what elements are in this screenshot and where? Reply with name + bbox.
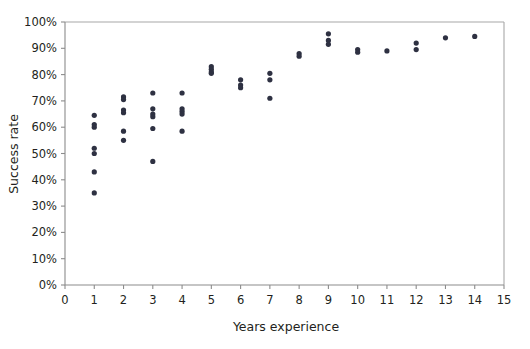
data-point bbox=[472, 34, 477, 39]
x-axis-ticks: 0123456789101112131415 bbox=[61, 285, 511, 307]
data-point bbox=[121, 97, 126, 102]
data-point bbox=[384, 48, 389, 53]
data-point bbox=[267, 96, 272, 101]
data-point bbox=[414, 47, 419, 52]
data-points bbox=[92, 31, 478, 195]
x-tick-label: 10 bbox=[350, 293, 365, 307]
data-point bbox=[414, 40, 419, 45]
data-point bbox=[179, 111, 184, 116]
data-point bbox=[150, 106, 155, 111]
data-point bbox=[179, 90, 184, 95]
data-point bbox=[92, 125, 97, 130]
data-point bbox=[209, 71, 214, 76]
data-point bbox=[297, 54, 302, 59]
y-tick-label: 90% bbox=[31, 41, 57, 55]
data-point bbox=[92, 151, 97, 156]
data-point bbox=[179, 129, 184, 134]
data-point bbox=[150, 126, 155, 131]
y-axis-title: Success rate bbox=[6, 114, 21, 194]
y-axis-ticks: 0%10%20%30%40%50%60%70%80%90%100% bbox=[24, 15, 65, 292]
data-point bbox=[238, 85, 243, 90]
x-tick-label: 7 bbox=[266, 293, 273, 307]
data-point bbox=[92, 113, 97, 118]
x-tick-label: 4 bbox=[178, 293, 185, 307]
y-tick-label: 20% bbox=[31, 225, 57, 239]
data-point bbox=[443, 35, 448, 40]
data-point bbox=[150, 159, 155, 164]
x-tick-label: 14 bbox=[467, 293, 482, 307]
data-point bbox=[355, 50, 360, 55]
x-tick-label: 15 bbox=[497, 293, 512, 307]
x-tick-label: 8 bbox=[295, 293, 302, 307]
x-tick-label: 13 bbox=[438, 293, 453, 307]
data-point bbox=[92, 169, 97, 174]
plot-frame bbox=[65, 22, 504, 285]
data-point bbox=[150, 90, 155, 95]
data-point bbox=[121, 110, 126, 115]
data-point bbox=[326, 31, 331, 36]
x-tick-label: 2 bbox=[120, 293, 127, 307]
x-axis-title: Years experience bbox=[232, 319, 340, 334]
x-tick-label: 3 bbox=[149, 293, 156, 307]
x-tick-label: 1 bbox=[91, 293, 98, 307]
x-tick-label: 11 bbox=[380, 293, 395, 307]
y-tick-label: 40% bbox=[31, 173, 57, 187]
data-point bbox=[92, 190, 97, 195]
data-point bbox=[267, 77, 272, 82]
y-tick-label: 0% bbox=[39, 278, 57, 292]
data-point bbox=[121, 138, 126, 143]
y-tick-label: 80% bbox=[31, 68, 57, 82]
data-point bbox=[150, 114, 155, 119]
y-tick-label: 60% bbox=[31, 120, 57, 134]
data-point bbox=[92, 146, 97, 151]
scatter-chart-figure: 0%10%20%30%40%50%60%70%80%90%100% 012345… bbox=[0, 0, 530, 349]
x-tick-label: 12 bbox=[409, 293, 424, 307]
y-tick-label: 70% bbox=[31, 94, 57, 108]
y-tick-label: 50% bbox=[31, 147, 57, 161]
y-tick-label: 10% bbox=[31, 252, 57, 266]
data-point bbox=[121, 129, 126, 134]
x-tick-label: 9 bbox=[325, 293, 332, 307]
plot-canvas: 0%10%20%30%40%50%60%70%80%90%100% 012345… bbox=[0, 0, 530, 349]
x-tick-label: 0 bbox=[61, 293, 68, 307]
data-point bbox=[267, 71, 272, 76]
data-point bbox=[238, 77, 243, 82]
y-tick-label: 100% bbox=[24, 15, 57, 29]
data-point bbox=[326, 42, 331, 47]
x-tick-label: 6 bbox=[237, 293, 244, 307]
y-tick-label: 30% bbox=[31, 199, 57, 213]
x-tick-label: 5 bbox=[208, 293, 215, 307]
